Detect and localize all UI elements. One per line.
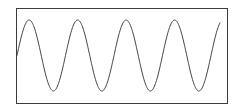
figure-container [0, 0, 242, 112]
sine-wave-plot [0, 0, 242, 112]
